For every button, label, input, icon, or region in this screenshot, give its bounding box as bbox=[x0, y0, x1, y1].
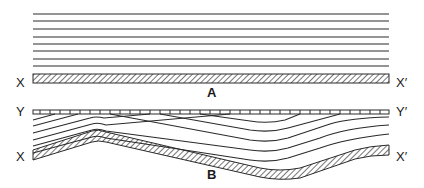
panel-b-y-left-label: Y bbox=[16, 104, 25, 119]
geology-diagram: X X′ A bbox=[0, 0, 424, 188]
panel-b-x-right-label: X′ bbox=[396, 149, 408, 164]
panel-a-label: A bbox=[207, 85, 217, 100]
panel-a-x-right-label: X′ bbox=[396, 75, 408, 90]
panel-b-label: B bbox=[207, 167, 216, 182]
panel-b-x-left-label: X bbox=[16, 149, 25, 164]
panel-a-x-left-label: X bbox=[16, 75, 25, 90]
panel-a-strata bbox=[33, 14, 389, 66]
panel-a-basement bbox=[33, 74, 389, 83]
panel-b-erosion-surface bbox=[33, 110, 389, 114]
panel-b-y-right-label: Y′ bbox=[396, 104, 408, 119]
